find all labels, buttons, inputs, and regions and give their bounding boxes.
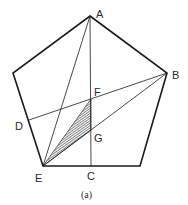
label-c: C	[87, 170, 95, 182]
label-f: F	[94, 86, 101, 98]
label-a: A	[96, 8, 104, 20]
label-e: E	[35, 172, 42, 184]
segment-ac	[90, 16, 91, 166]
pentagon-diagram: A B D F G E C (a)	[0, 0, 188, 205]
segment-be	[43, 73, 167, 166]
shaded-triangle-efg	[43, 99, 91, 166]
label-d: D	[15, 120, 23, 132]
label-b: B	[172, 69, 179, 81]
label-g: G	[94, 132, 103, 144]
figure-caption: (a)	[81, 189, 92, 201]
